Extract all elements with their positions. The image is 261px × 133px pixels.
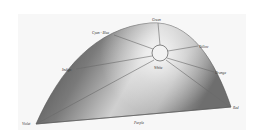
label-purple: Purple bbox=[133, 121, 144, 125]
label-yellow: Yellow bbox=[199, 45, 209, 49]
label-orange: Orange bbox=[215, 71, 226, 75]
label-indigo: Indigo bbox=[61, 68, 72, 72]
label-white: White bbox=[154, 66, 163, 70]
label-cyan-blue: Cyan - Blue bbox=[92, 31, 110, 35]
dome-highlight bbox=[36, 23, 231, 124]
label-green: Green bbox=[152, 18, 161, 22]
white-point-circle bbox=[152, 45, 168, 61]
label-red: Red bbox=[232, 106, 239, 110]
color-dome-diagram: Green Cyan - Blue Yellow Indigo White Or… bbox=[0, 0, 261, 133]
label-violet: Violet bbox=[22, 122, 31, 126]
